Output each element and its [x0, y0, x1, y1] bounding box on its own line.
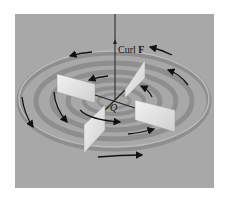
curl-text: Curl	[118, 44, 138, 55]
curl-vector-symbol: F	[138, 44, 144, 55]
curl-paddle-wheel-diagram	[0, 0, 227, 200]
curl-f-label: Curl F	[118, 44, 144, 55]
origin-label: Q	[110, 102, 117, 113]
